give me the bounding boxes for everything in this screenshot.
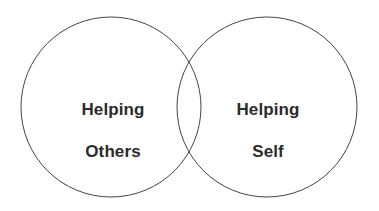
venn-label-left-line1: Helping <box>43 99 183 120</box>
venn-label-right-line1: Helping <box>198 99 338 120</box>
venn-label-left-line2: Others <box>43 141 183 162</box>
venn-diagram: Helping Others Helping Self <box>0 0 379 211</box>
venn-label-left: Helping Others <box>43 78 183 183</box>
venn-label-right: Helping Self <box>198 78 338 183</box>
venn-label-right-line2: Self <box>198 141 338 162</box>
